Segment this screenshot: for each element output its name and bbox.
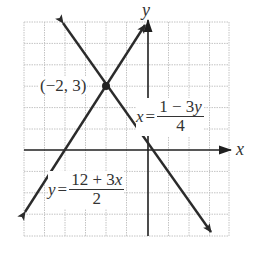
eq1-num-var: y	[194, 97, 202, 116]
eq2-equals: =	[58, 181, 68, 198]
eq2-num-var: x	[115, 170, 123, 189]
eq1-denominator: 4	[176, 117, 185, 136]
eq2-numerator: 12 + 3x	[69, 171, 124, 190]
x-axis-label: x	[236, 140, 244, 158]
eq1-equals: =	[146, 108, 156, 125]
eq1-num-text: 1 − 3	[159, 97, 194, 116]
intersection-label: (−2, 3)	[39, 77, 87, 94]
eq1-lhs: x	[136, 108, 144, 125]
graph-canvas	[0, 0, 254, 255]
y-axis-label: y	[142, 1, 150, 19]
eq2-lhs: y	[48, 181, 56, 198]
eq2-fraction: 12 + 3x 2	[69, 171, 124, 209]
equation-label-2: y = 12 + 3x 2	[48, 171, 124, 209]
equation-label-1: x = 1 − 3y 4	[136, 98, 204, 136]
eq2-denominator: 2	[92, 190, 101, 209]
eq1-fraction: 1 − 3y 4	[157, 98, 204, 136]
eq2-num-text: 12 + 3	[71, 170, 115, 189]
eq1-numerator: 1 − 3y	[157, 98, 204, 117]
intersection-point	[102, 82, 110, 90]
